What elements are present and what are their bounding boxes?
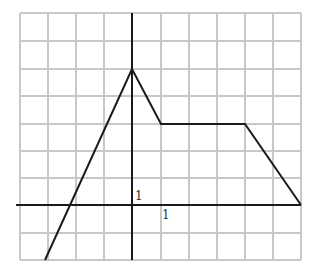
- x-unit-label: 1: [162, 208, 170, 222]
- function-line: [45, 69, 301, 260]
- axes: [16, 13, 301, 260]
- function-graph: 1 1: [0, 0, 319, 275]
- y-unit-label: 1: [135, 189, 143, 203]
